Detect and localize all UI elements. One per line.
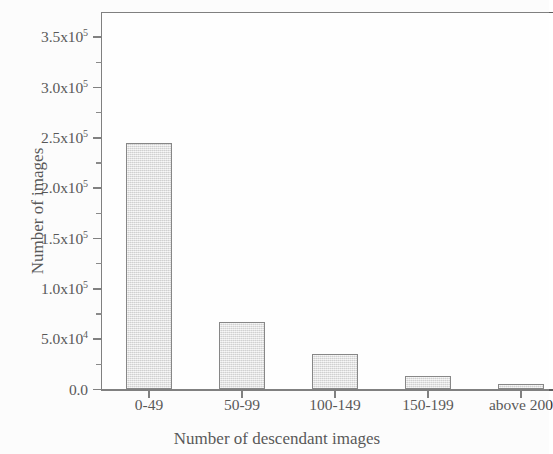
x-axis-tick-label: 0-49 bbox=[135, 396, 163, 414]
bar bbox=[219, 322, 265, 390]
y-axis-tick-major bbox=[93, 137, 102, 138]
y-axis-tick-minor bbox=[96, 112, 102, 113]
y-axis-tick-minor bbox=[96, 364, 102, 365]
y-axis-tick-minor bbox=[96, 213, 102, 214]
y-axis-tick-major bbox=[93, 87, 102, 88]
bar bbox=[405, 376, 451, 389]
y-axis-tick-minor bbox=[96, 313, 102, 314]
y-axis-tick-minor bbox=[96, 263, 102, 264]
y-axis-tick-minor bbox=[96, 62, 102, 63]
bar bbox=[498, 384, 544, 389]
y-axis-tick-label: 3.0x105 bbox=[41, 80, 88, 96]
y-axis-tick-major bbox=[93, 36, 102, 37]
y-axis-tick-label: 0.0 bbox=[69, 382, 88, 398]
y-axis-tick-label: 1.0x105 bbox=[41, 281, 88, 297]
y-axis-tick-label: 3.5x105 bbox=[41, 29, 88, 45]
y-axis-tick-major bbox=[93, 338, 102, 339]
y-axis-tick-major bbox=[93, 187, 102, 188]
y-axis-tick-major bbox=[93, 238, 102, 239]
y-axis-tick-label: 1.5x105 bbox=[41, 231, 88, 247]
y-axis-tick-major bbox=[93, 288, 102, 289]
x-axis-tick-label: 50-99 bbox=[224, 396, 260, 414]
x-axis-tick-label: above 200 bbox=[489, 396, 553, 414]
y-axis-tick-label: 2.5x105 bbox=[41, 130, 88, 146]
bar bbox=[312, 354, 358, 389]
y-axis-tick-major bbox=[93, 389, 102, 390]
y-axis-tick-minor bbox=[96, 162, 102, 163]
bar bbox=[126, 143, 172, 390]
y-axis-tick-label: 2.0x105 bbox=[41, 180, 88, 196]
x-axis-tick-label: 100-149 bbox=[309, 396, 361, 414]
x-axis-tick-label: 150-199 bbox=[402, 396, 454, 414]
y-axis-tick-label: 5.0x104 bbox=[41, 331, 88, 347]
